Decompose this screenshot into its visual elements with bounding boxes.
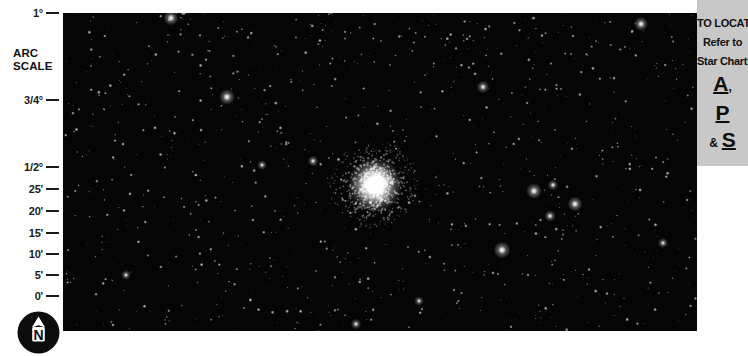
arc-scale-tick-mark <box>46 188 59 190</box>
arc-scale-tick-mark <box>46 295 59 297</box>
chart-letter-row-p: P <box>697 100 748 127</box>
arc-scale-caption-line2: SCALE <box>13 60 52 73</box>
arc-scale-gutter: ARC SCALE 1°3/4°1/2°25'20'15'10'5'0' N <box>0 0 63 356</box>
arc-scale-tick-label: 0' <box>35 291 43 302</box>
arc-scale-tick: 1/2° <box>24 160 63 174</box>
arc-scale-caption: ARC SCALE <box>13 47 52 72</box>
locate-heading: TO LOCATE <box>697 0 748 33</box>
locate-reference-panel: TO LOCATE Refer to Star Charts A, P &S <box>697 0 748 166</box>
arc-scale-tick: 25' <box>29 182 63 196</box>
sky-photograph <box>63 13 697 331</box>
arc-scale-tick-mark <box>46 232 59 234</box>
chart-letter-s[interactable]: S <box>722 128 736 151</box>
arc-scale-tick-mark <box>46 253 59 255</box>
north-letter: N <box>33 327 43 343</box>
arc-scale-tick: 20' <box>29 204 63 218</box>
finder-chart-page: ARC SCALE 1°3/4°1/2°25'20'15'10'5'0' N T… <box>0 0 748 356</box>
chart-letter-p[interactable]: P <box>715 101 729 124</box>
arc-scale-tick-mark <box>46 274 59 276</box>
arc-scale-tick: 10' <box>29 247 63 261</box>
arc-scale-tick: 0' <box>35 289 63 303</box>
locate-star-charts-label: Star Charts <box>697 52 748 71</box>
arc-scale-tick: 1° <box>33 6 63 20</box>
arc-scale-tick-mark <box>46 12 59 14</box>
arc-scale-tick-label: 20' <box>29 206 43 217</box>
arc-scale-tick-label: 5' <box>35 270 43 281</box>
arc-scale-tick: 5' <box>35 268 63 282</box>
arc-scale-tick-label: 1° <box>33 8 43 19</box>
arc-scale-tick-mark <box>46 99 59 101</box>
arc-scale-tick-label: 15' <box>29 228 43 239</box>
arc-scale-tick-mark <box>46 210 59 212</box>
north-arrow-icon: N <box>17 311 60 354</box>
chart-letter-ampersand: & <box>709 136 718 150</box>
star-field-canvas <box>63 13 697 331</box>
arc-scale-tick-label: 1/2° <box>24 162 43 173</box>
chart-letter-a[interactable]: A <box>713 72 728 95</box>
arc-scale-tick-mark <box>46 166 59 168</box>
north-indicator: N <box>17 311 60 354</box>
arc-scale-tick: 3/4° <box>24 93 63 107</box>
arc-scale-tick-label: 25' <box>29 184 43 195</box>
chart-letter-row-a: A, <box>697 71 748 100</box>
locate-subheading: Refer to <box>697 33 748 52</box>
chart-letter-a-comma: , <box>728 80 731 94</box>
arc-scale-tick: 15' <box>29 226 63 240</box>
arc-scale-caption-line1: ARC <box>13 47 52 60</box>
chart-letter-row-s: &S <box>697 127 748 156</box>
arc-scale-tick-label: 10' <box>29 249 43 260</box>
arc-scale-tick-label: 3/4° <box>24 95 43 106</box>
